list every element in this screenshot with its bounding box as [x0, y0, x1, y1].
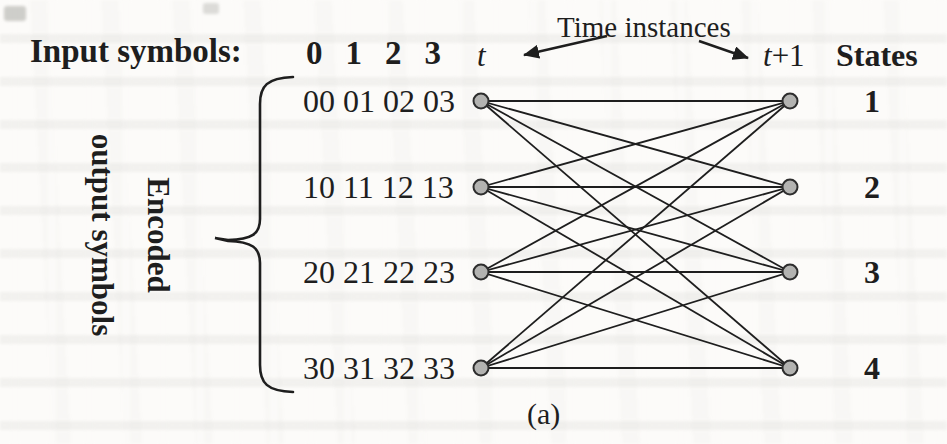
trellis-node-right-state-3 — [783, 265, 798, 280]
encoded-outputs-row-3: 20 21 22 23 — [303, 250, 455, 294]
time-t-plus-1-label: t+1 — [763, 40, 805, 72]
encoded-label-line1: Encoded — [130, 110, 186, 360]
input-symbols-label: Input symbols: — [30, 33, 242, 69]
input-symbols-digits: 0 1 2 3 — [306, 35, 441, 71]
encoded-output-symbols-label: Encoded output symbols — [74, 110, 186, 360]
trellis-node-left-state-1 — [474, 94, 489, 109]
encoded-outputs-row-2: 10 11 12 13 — [303, 165, 454, 209]
state-label-1: 1 — [845, 79, 899, 123]
encoded-symbols-brace — [215, 77, 293, 392]
time-t-plus-1-base: t — [763, 38, 772, 73]
trellis-node-right-state-1 — [783, 94, 798, 109]
trellis-node-right-state-2 — [783, 180, 798, 195]
figure-trellis-diagram: Input symbols: 0 1 2 3 t Time instances … — [0, 0, 947, 444]
encoded-label-line2: output symbols — [74, 110, 130, 360]
figure-caption: (a) — [527, 397, 560, 431]
time-instances-label: Time instances — [557, 11, 731, 43]
trellis-edges — [481, 101, 790, 368]
time-instances-arrow-right — [699, 41, 748, 58]
state-label-2: 2 — [845, 165, 899, 209]
input-symbol-1: 1 — [346, 35, 363, 71]
state-label-3: 3 — [845, 250, 899, 294]
trellis-node-left-state-3 — [474, 265, 489, 280]
state-label-4: 4 — [845, 346, 899, 390]
trellis-node-left-state-2 — [474, 180, 489, 195]
encoded-outputs-row-4: 30 31 32 33 — [303, 346, 455, 390]
input-symbol-2: 2 — [385, 35, 402, 71]
time-t-plus-1-suffix: +1 — [772, 38, 805, 73]
time-t-label: t — [477, 40, 486, 72]
input-symbol-0: 0 — [306, 35, 323, 71]
trellis-node-right-state-4 — [783, 361, 798, 376]
input-symbol-3: 3 — [425, 35, 442, 71]
states-label: States — [836, 37, 918, 73]
encoded-outputs-row-1: 00 01 02 03 — [303, 79, 455, 123]
trellis-node-left-state-4 — [474, 361, 489, 376]
